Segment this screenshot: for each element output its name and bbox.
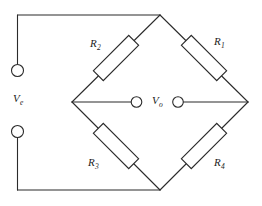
resistor-label-r2: R2: [90, 38, 100, 49]
output-voltage-label-symbol: V: [152, 94, 159, 106]
output-voltage-label: Vo: [152, 95, 162, 106]
output-voltage-label-subscript: o: [159, 100, 163, 109]
resistor-label-r3: R3: [88, 157, 98, 168]
resistor-label-r1-subscript: 1: [221, 41, 225, 50]
resistor-label-r2-subscript: 2: [97, 43, 101, 52]
resistor-label-r1-symbol: R: [214, 35, 221, 47]
excitation-voltage-label-subscript: e: [20, 98, 23, 107]
resistor-label-r4-subscript: 4: [221, 162, 225, 171]
resistor-label-r1: R1: [214, 36, 224, 47]
excitation-voltage-label: Ve: [13, 93, 23, 104]
excitation-voltage-label-symbol: V: [13, 92, 20, 104]
wheatstone-bridge-figure: R1 R2 R3 R4 Ve Vo: [0, 0, 262, 206]
resistor-label-r3-symbol: R: [88, 156, 95, 168]
resistor-label-r4: R4: [214, 157, 224, 168]
output-terminal-right[interactable]: [173, 97, 184, 108]
excitation-terminal-top[interactable]: [12, 65, 24, 77]
resistor-label-r2-symbol: R: [90, 37, 97, 49]
output-terminal-left[interactable]: [131, 97, 142, 108]
excitation-terminal-bottom[interactable]: [12, 126, 24, 138]
resistor-r3-symbol: [93, 123, 138, 168]
resistor-label-r3-subscript: 3: [95, 162, 99, 171]
resistor-label-r4-symbol: R: [214, 156, 221, 168]
circuit-svg: [0, 0, 262, 206]
